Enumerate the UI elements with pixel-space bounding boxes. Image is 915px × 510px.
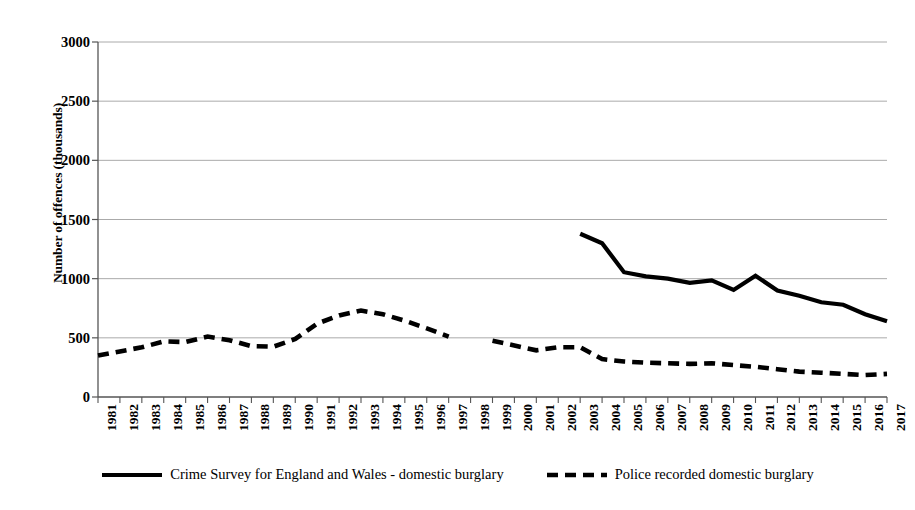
x-axis-tick-label: 1995 (412, 404, 426, 460)
x-axis-tick-label: 1984 (171, 404, 185, 460)
solid-line-icon (101, 469, 163, 481)
x-axis-tick-label: 2009 (719, 404, 733, 460)
x-axis-tick-label: 1991 (324, 404, 338, 460)
x-axis-tick-label: 1990 (302, 404, 316, 460)
x-axis-tick-label: 2001 (543, 404, 557, 460)
x-axis-tick-label: 1982 (127, 404, 141, 460)
x-axis-tick-label: 1981 (105, 404, 119, 460)
x-axis-tick-label: 1994 (390, 404, 404, 460)
x-axis-tick-label: 2000 (521, 404, 535, 460)
x-axis-tick-label: 2015 (850, 404, 864, 460)
x-axis-tick-label: 2008 (697, 404, 711, 460)
x-axis-tick-label: 1987 (237, 404, 251, 460)
x-axis-tick-label: 2011 (763, 404, 777, 460)
x-axis-tick-labels: 1981198219831984198519861987198819891990… (0, 0, 915, 510)
x-axis-tick-label: 1996 (434, 404, 448, 460)
x-axis-tick-label: 1999 (500, 404, 514, 460)
x-axis-tick-label: 1992 (346, 404, 360, 460)
x-axis-tick-label: 2017 (894, 404, 908, 460)
legend-label: Crime Survey for England and Wales - dom… (170, 466, 503, 483)
x-axis-tick-label: 2010 (741, 404, 755, 460)
x-axis-tick-label: 1988 (258, 404, 272, 460)
chart-legend: Crime Survey for England and Wales - dom… (0, 466, 915, 483)
x-axis-tick-label: 1985 (193, 404, 207, 460)
x-axis-tick-label: 2012 (784, 404, 798, 460)
x-axis-tick-label: 2003 (587, 404, 601, 460)
x-axis-tick-label: 1997 (456, 404, 470, 460)
x-axis-tick-label: 2002 (565, 404, 579, 460)
x-axis-tick-label: 1993 (368, 404, 382, 460)
x-axis-tick-label: 1989 (280, 404, 294, 460)
legend-entry-1[interactable]: Crime Survey for England and Wales - dom… (101, 466, 503, 483)
x-axis-tick-label: 2013 (806, 404, 820, 460)
x-axis-tick-label: 2007 (675, 404, 689, 460)
x-axis-tick-label: 1998 (478, 404, 492, 460)
x-axis-tick-label: 1986 (215, 404, 229, 460)
dashed-line-icon (546, 469, 608, 481)
x-axis-tick-label: 2014 (828, 404, 842, 460)
chart-container: Number of offences (thousands) 300025002… (0, 0, 915, 510)
x-axis-tick-label: 2004 (609, 404, 623, 460)
x-axis-tick-label: 2016 (872, 404, 886, 460)
x-axis-tick-label: 2006 (653, 404, 667, 460)
x-axis-tick-label: 1983 (149, 404, 163, 460)
x-axis-tick-label: 2005 (631, 404, 645, 460)
legend-entry-2[interactable]: Police recorded domestic burglary (546, 466, 814, 483)
legend-label: Police recorded domestic burglary (615, 466, 814, 483)
